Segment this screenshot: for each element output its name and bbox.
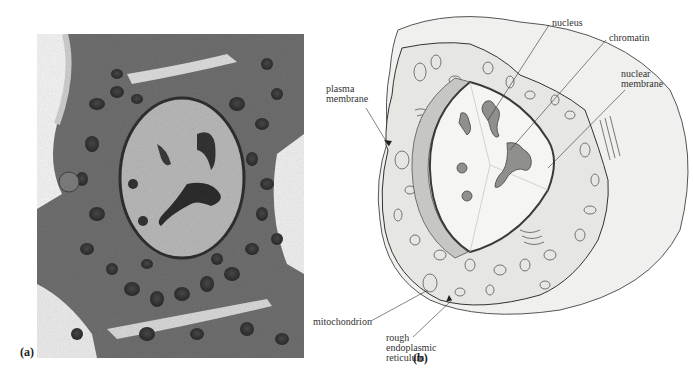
label-mitochondrion: mitochondrion <box>313 317 372 327</box>
label-nucleus: nucleus <box>552 18 583 28</box>
label-chromatin: chromatin <box>609 33 650 43</box>
label-nuclear-membrane: nuclear membrane <box>621 69 663 89</box>
panel-label-b: (b) <box>413 351 428 366</box>
label-plasma-membrane: plasma membrane <box>326 84 368 104</box>
label-rough-er: rough endoplasmic reticulum <box>386 333 437 363</box>
